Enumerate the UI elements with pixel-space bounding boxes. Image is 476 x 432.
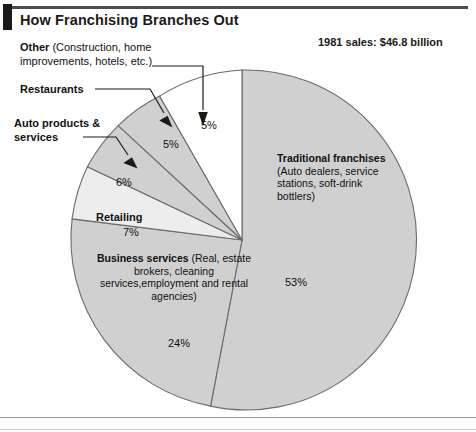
pie-slices bbox=[71, 70, 417, 410]
pie-value-business-services: 24% bbox=[168, 337, 190, 350]
pie-label-traditional-rest: (Auto dealers, service stations, soft-dr… bbox=[277, 165, 379, 202]
pie-label-business-bold: Business services bbox=[97, 252, 189, 264]
pie-value-auto-products: 6% bbox=[116, 176, 132, 189]
pie-label-traditional-bold: Traditional franchises bbox=[277, 152, 386, 164]
pie-label-business-services: Business services (Real, estate brokers,… bbox=[88, 252, 260, 302]
pie-label-retailing: Retailing bbox=[96, 211, 142, 224]
pie-label-traditional-franchises: Traditional franchises (Auto dealers, se… bbox=[277, 152, 397, 202]
slice-business-services bbox=[71, 219, 242, 406]
pie-value-restaurants: 5% bbox=[163, 138, 179, 151]
pie-value-retailing: 7% bbox=[123, 226, 139, 239]
figure-container: How Franchising Branches Out 1981 sales:… bbox=[0, 0, 476, 432]
bottom-divider-rule-secondary bbox=[0, 429, 476, 430]
pie-value-other: 5% bbox=[201, 119, 217, 132]
bottom-divider-rule bbox=[0, 417, 476, 418]
pie-value-traditional-franchises: 53% bbox=[285, 276, 307, 289]
pie-chart bbox=[0, 0, 476, 432]
